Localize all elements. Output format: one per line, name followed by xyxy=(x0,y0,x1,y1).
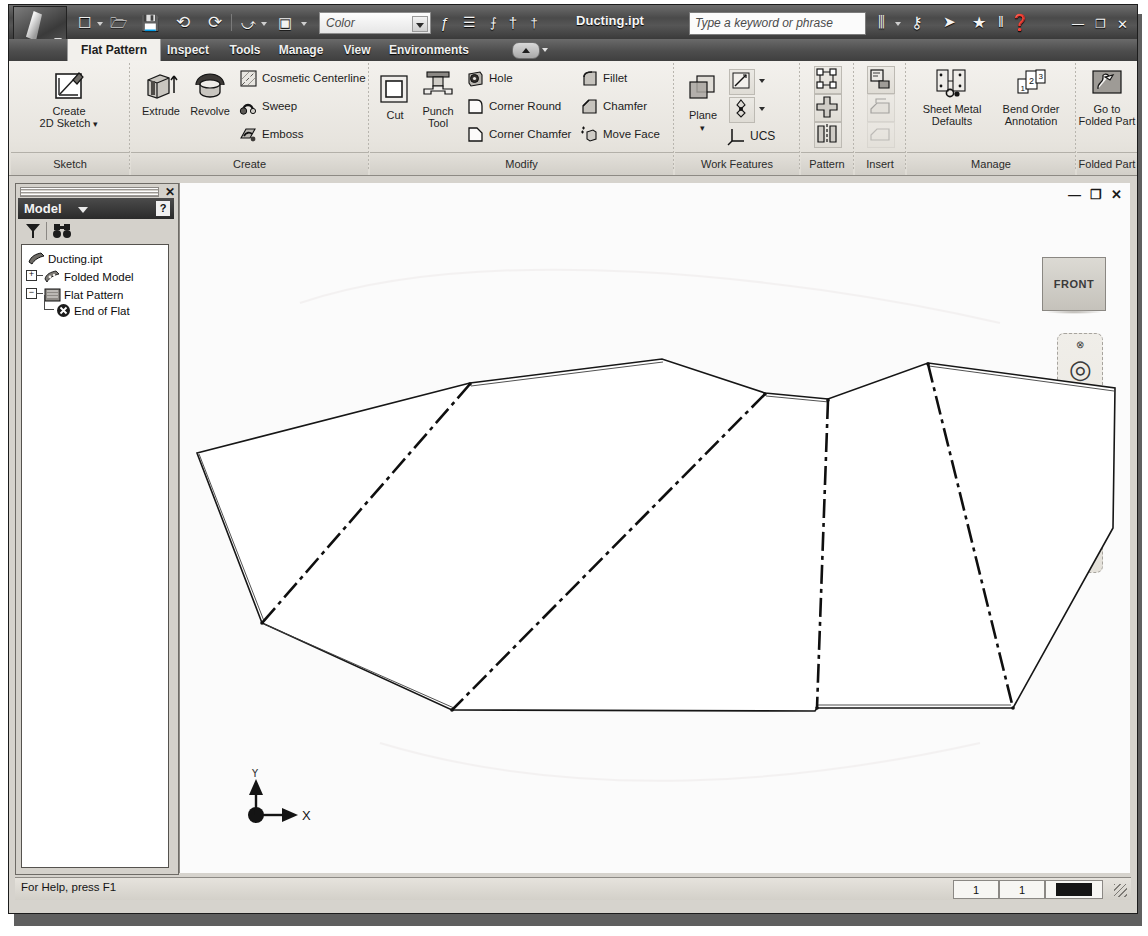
window-tile-dropdown-icon[interactable] xyxy=(895,22,901,26)
cut-button[interactable]: Cut xyxy=(374,73,416,121)
filter-icon[interactable] xyxy=(24,221,42,240)
flat-pattern-outline xyxy=(197,359,1115,711)
tab-environments[interactable]: Environments xyxy=(379,39,479,61)
bend-order-annotation-button[interactable]: 1 2 3 Bend OrderAnnotation xyxy=(991,67,1071,127)
sweep-icon xyxy=(239,97,258,116)
move-face-button[interactable]: Move Face xyxy=(580,123,660,145)
status-bar: For Help, press F1 1 1 xyxy=(15,877,1131,900)
ribbon-panel-modify: Cut PunchTool xyxy=(370,61,673,175)
material-icon[interactable]: ▣ xyxy=(275,13,294,32)
ribbon-panel-sketch: Create2D Sketch ▾ Sketch xyxy=(11,61,129,175)
tree-connector xyxy=(36,275,43,276)
ucs-button[interactable]: UCS xyxy=(727,125,775,147)
search-input[interactable]: Type a keyword or phrase xyxy=(689,12,866,35)
derive-button[interactable] xyxy=(867,66,895,94)
sweep-button[interactable]: Sweep xyxy=(239,95,297,117)
fillet-button[interactable]: Fillet xyxy=(580,67,627,89)
ucs-icon xyxy=(727,127,746,146)
go-to-folded-part-button[interactable]: Go toFolded Part xyxy=(1075,67,1138,127)
tab-view[interactable]: View xyxy=(331,39,383,61)
tree-item-folded-model[interactable]: Folded Model xyxy=(44,268,134,285)
punch-tool-label: PunchTool xyxy=(422,105,453,129)
model-tree[interactable]: Ducting.ipt + Folded Model − xyxy=(21,244,169,868)
sweep-profile-icon[interactable]: † xyxy=(527,11,541,33)
chamfer-button[interactable]: Chamfer xyxy=(580,95,647,117)
undo-icon[interactable]: ⟲ xyxy=(173,13,192,32)
minimize-window-icon[interactable]: — xyxy=(1071,13,1085,35)
ribbon-panel-folded-part: Go toFolded Part Folded Part xyxy=(1077,61,1137,175)
sheet-metal-defaults-button[interactable]: Sheet MetalDefaults xyxy=(913,67,991,127)
dimension-icon[interactable]: ⨍ xyxy=(485,11,501,33)
hole-button[interactable]: Hole xyxy=(466,67,513,89)
tree-item-flat-pattern[interactable]: Flat Pattern xyxy=(44,286,123,303)
insert-disabled-button[interactable] xyxy=(867,122,895,148)
material-dropdown-icon[interactable] xyxy=(301,22,307,26)
pin-icon[interactable]: ➤ xyxy=(939,11,959,33)
revolve-button[interactable]: Revolve xyxy=(185,69,235,117)
open-folder-icon[interactable]: 🗁 xyxy=(109,13,128,32)
appearance-icon[interactable]: ƒ xyxy=(437,11,453,33)
emboss-button[interactable]: Emboss xyxy=(239,123,304,145)
color-selector-dropdown[interactable] xyxy=(412,16,428,32)
punch-tool-button[interactable]: PunchTool xyxy=(414,69,462,129)
ribbon-options-dropdown-icon[interactable] xyxy=(542,48,548,52)
graphics-window[interactable]: UG M — ❐ ✕ FRONT ⊗ ◎ ✋ ⌕ xyxy=(179,183,1130,873)
import-button[interactable] xyxy=(867,94,895,122)
circular-pattern-button[interactable] xyxy=(814,94,842,122)
window-tile-icon[interactable]: ⫼ xyxy=(871,11,891,33)
sheet-metal-defaults-icon xyxy=(933,67,971,101)
ucs-label: UCS xyxy=(750,129,775,143)
bend-order-annotation-label: Bend OrderAnnotation xyxy=(1003,103,1060,127)
resize-grip[interactable] xyxy=(1114,884,1127,897)
panel-divider xyxy=(853,63,854,171)
create-2d-sketch-button[interactable]: Create2D Sketch ▾ xyxy=(37,69,101,130)
restore-window-icon[interactable]: ❐ xyxy=(1093,13,1107,35)
work-axis-dropdown-icon[interactable] xyxy=(759,79,765,83)
cosmetic-centerline-button[interactable]: Cosmetic Centerline xyxy=(239,67,366,89)
work-point-button[interactable] xyxy=(729,97,755,123)
favorites-star-icon[interactable]: ★ xyxy=(969,11,989,33)
panel-drag-grip[interactable] xyxy=(20,187,159,197)
tab-inspect[interactable]: Inspect xyxy=(155,39,221,61)
corner-round-button[interactable]: Corner Round xyxy=(466,95,561,117)
toolbar-separator xyxy=(231,14,232,31)
new-file-dropdown-icon[interactable] xyxy=(97,22,103,26)
emboss-label: Emboss xyxy=(262,128,304,140)
coordinate-axis-indicator: Y X xyxy=(238,769,328,839)
sign-in-icon[interactable]: ‖ xyxy=(995,11,1007,33)
ribbon-collapse-button[interactable] xyxy=(512,42,540,59)
panel-label-folded-part: Folded Part xyxy=(1077,152,1137,175)
tab-tools[interactable]: Tools xyxy=(217,39,273,61)
help-icon[interactable]: ? xyxy=(156,201,170,216)
find-binoculars-icon[interactable] xyxy=(52,222,72,240)
work-point-dropdown-icon[interactable] xyxy=(759,107,765,111)
panel-divider xyxy=(129,63,130,171)
return-icon[interactable]: ⤻ xyxy=(239,13,258,32)
tree-item-document[interactable]: Ducting.ipt xyxy=(28,250,102,267)
corner-chamfer-button[interactable]: Corner Chamfer xyxy=(466,123,571,145)
extrude-button[interactable]: Extrude xyxy=(137,69,185,117)
redo-icon[interactable]: ⟳ xyxy=(205,13,224,32)
new-file-icon[interactable]: ☐ xyxy=(75,13,94,32)
key-icon[interactable]: ⚷ xyxy=(907,11,927,33)
work-axis-button[interactable] xyxy=(729,69,755,95)
tree-item-end-of-flat[interactable]: End of Flat xyxy=(56,302,130,319)
rectangular-pattern-icon xyxy=(815,67,839,91)
mirror-button[interactable] xyxy=(814,122,842,148)
ribbon-panel-pattern: Pattern xyxy=(801,61,853,175)
adjust-icon[interactable]: ☰ xyxy=(459,11,479,33)
save-icon[interactable]: 💾 xyxy=(141,13,160,32)
tab-manage[interactable]: Manage xyxy=(267,39,335,61)
corner-chamfer-label: Corner Chamfer xyxy=(489,128,571,140)
chevron-up-icon xyxy=(522,48,530,53)
tab-flat-pattern[interactable]: Flat Pattern xyxy=(67,39,161,61)
close-window-icon[interactable]: ✕ xyxy=(1115,13,1129,35)
plane-button[interactable]: Plane▾ xyxy=(677,73,729,134)
color-selector[interactable]: Color xyxy=(319,12,431,34)
chevron-down-icon[interactable] xyxy=(78,207,88,213)
help-question-icon[interactable]: ❓ xyxy=(1009,11,1031,33)
close-icon[interactable]: ✕ xyxy=(165,185,175,199)
return-dropdown-icon[interactable] xyxy=(261,22,267,26)
measure-icon[interactable]: † xyxy=(505,11,521,33)
rectangular-pattern-button[interactable] xyxy=(814,66,842,94)
